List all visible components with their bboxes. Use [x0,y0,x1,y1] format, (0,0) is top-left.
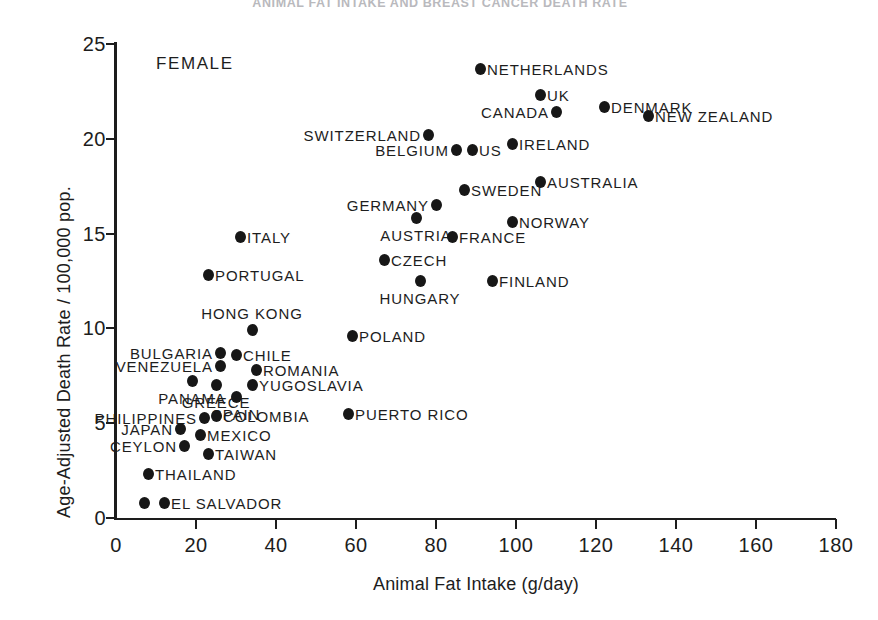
data-point-label-belgium: BELGIUM [375,143,449,158]
x-tick-40 [275,519,277,529]
y-tick-label-10: 10 [83,317,106,340]
y-tick-label-20: 20 [83,127,106,150]
data-point-label-switzerland: SWITZERLAND [304,128,421,143]
data-point-label-australia: AUSTRALIA [547,175,638,190]
data-point-denmark[interactable] [599,101,610,113]
x-tick-100 [515,519,517,529]
data-point-mexico[interactable] [195,429,206,441]
x-axis-title: Animal Fat Intake (g/day) [116,574,836,595]
data-point-yugoslavia[interactable] [247,379,258,391]
data-point-poland[interactable] [347,330,358,342]
data-point-label-taiwan: TAIWAN [215,446,277,461]
data-point-label-france: FRANCE [459,230,526,245]
data-point-norway[interactable] [507,216,518,228]
data-point-el-salvador[interactable] [159,497,170,509]
y-tick-label-0: 0 [94,507,106,530]
y-tick-label-25: 25 [83,33,106,56]
data-point-hungary[interactable] [415,275,426,287]
x-tick-80 [435,519,437,529]
data-point-panama[interactable] [187,375,198,387]
data-point-belgium[interactable] [451,144,462,156]
data-point-japan[interactable] [175,423,186,435]
data-point-label-portugal: PORTUGAL [215,268,304,283]
data-point-label-germany: GERMANY [347,198,429,213]
y-tick-20 [106,138,116,140]
data-point-label-thailand: THAILAND [155,467,236,482]
data-point-label-netherlands: NETHERLANDS [487,61,609,76]
data-point-taiwan[interactable] [203,448,214,460]
data-point-label-hong-kong: HONG KONG [201,306,302,321]
data-point-canada[interactable] [551,106,562,118]
data-point-switzerland[interactable] [423,129,434,141]
data-point-ceylon[interactable] [179,440,190,452]
data-point-spain[interactable] [231,391,242,403]
data-point-label-colombia: COLOMBIA [223,408,309,423]
x-tick-label-160: 160 [739,534,774,557]
data-point-france[interactable] [447,231,458,243]
y-tick-label-15: 15 [83,222,106,245]
data-point-bulgaria[interactable] [215,347,226,359]
data-point-label-us: US [479,143,502,158]
data-point-austria[interactable] [411,212,422,224]
data-point-thailand[interactable] [143,468,154,480]
data-point-ireland[interactable] [507,138,518,150]
x-tick-60 [355,519,357,529]
y-tick-25 [106,43,116,45]
y-tick-15 [106,233,116,235]
data-point-uk[interactable] [535,89,546,101]
plot-area: 0510152025 020406080100120140160180 NETH… [116,44,836,518]
data-point-finland[interactable] [487,275,498,287]
data-point-label-romania: ROMANIA [263,363,339,378]
x-tick-140 [675,519,677,529]
x-tick-20 [195,519,197,529]
data-point-label-new-zealand: NEW ZEALAND [655,109,773,124]
series-annotation-female: FEMALE [156,54,234,74]
y-tick-0 [106,517,116,519]
data-point-venezuela[interactable] [215,360,226,372]
y-tick-10 [106,327,116,329]
data-point-italy[interactable] [235,231,246,243]
x-tick-120 [595,519,597,529]
data-point-label-finland: FINLAND [499,274,569,289]
x-tick-label-20: 20 [184,534,207,557]
data-point-us[interactable] [467,144,478,156]
data-point-label-canada: CANADA [481,105,549,120]
data-point-label-japan: JAPAN [121,421,173,436]
data-point-label-sweden: SWEDEN [471,182,542,197]
data-point-label-venezuela: VENEZUELA [116,359,213,374]
data-point-label-italy: ITALY [247,230,291,245]
data-point-colombia[interactable] [211,410,222,422]
data-point-label-puerto-rico: PUERTO RICO [355,406,469,421]
data-point-label-mexico: MEXICO [207,427,272,442]
data-point-unlabeled[interactable] [139,497,150,509]
x-tick-label-60: 60 [344,534,367,557]
x-tick-label-120: 120 [579,534,614,557]
figure-title-cutoff: ANIMAL FAT INTAKE AND BREAST CANCER DEAT… [95,0,785,8]
data-point-label-czech: CZECH [391,253,447,268]
data-point-chile[interactable] [231,349,242,361]
x-tick-label-80: 80 [424,534,447,557]
data-point-hong-kong[interactable] [247,324,258,336]
x-tick-label-180: 180 [819,534,854,557]
data-point-sweden[interactable] [459,184,470,196]
data-point-label-hungary: HUNGARY [379,291,460,306]
data-point-new-zealand[interactable] [643,110,654,122]
data-point-germany[interactable] [431,199,442,211]
data-point-czech[interactable] [379,254,390,266]
x-tick-label-40: 40 [264,534,287,557]
data-point-label-uk: UK [547,88,570,103]
y-axis-title: Age-Adjusted Death Rate / 100,000 pop. [54,186,75,518]
x-tick-label-100: 100 [499,534,534,557]
data-point-label-chile: CHILE [243,347,292,362]
x-tick-180 [835,519,837,529]
data-point-philippines[interactable] [199,412,210,424]
data-point-netherlands[interactable] [475,63,486,75]
data-point-label-el-salvador: EL SALVADOR [171,495,282,510]
data-point-puerto-rico[interactable] [343,408,354,420]
x-tick-label-0: 0 [110,534,122,557]
x-axis-line [114,518,836,521]
scatter-plot-figure: ANIMAL FAT INTAKE AND BREAST CANCER DEAT… [0,0,878,620]
data-point-portugal[interactable] [203,269,214,281]
data-point-greece[interactable] [211,379,222,391]
data-point-romania[interactable] [251,364,262,376]
